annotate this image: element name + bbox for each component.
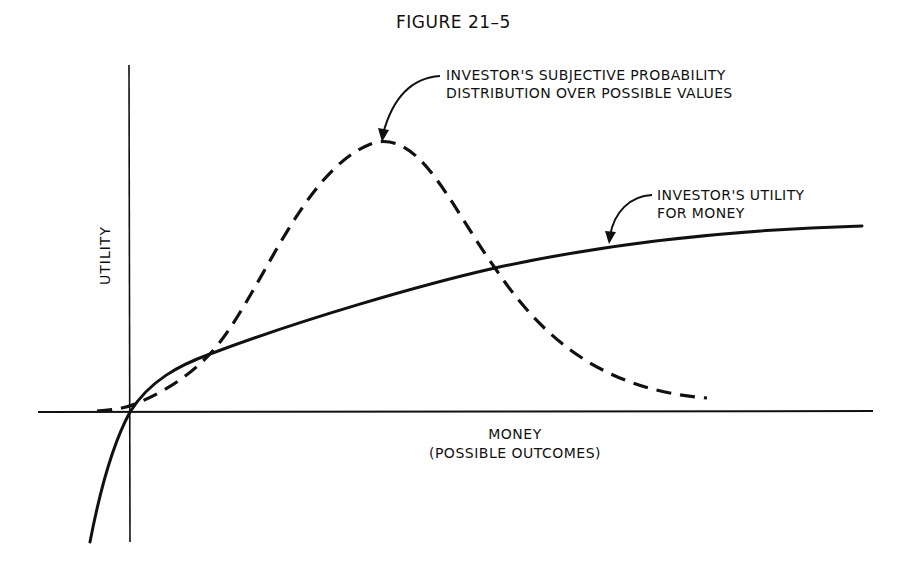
x-axis-label-line2: (POSSIBLE OUTCOMES)	[400, 444, 630, 463]
distribution-annotation-line1: INVESTOR'S SUBJECTIVE PROBABILITY	[446, 66, 733, 84]
utility-annotation: INVESTOR'S UTILITY FOR MONEY	[657, 186, 805, 222]
x-axis-label-line1: MONEY	[400, 425, 630, 444]
probability-distribution-curve	[97, 142, 707, 411]
distribution-annotation-line2: DISTRIBUTION OVER POSSIBLE VALUES	[446, 84, 733, 102]
distribution-annotation: INVESTOR'S SUBJECTIVE PROBABILITY DISTRI…	[446, 66, 733, 102]
utility-curve	[90, 226, 862, 542]
distribution-arrowhead-icon	[378, 128, 389, 142]
utility-arrow-icon	[610, 195, 652, 236]
y-axis	[129, 65, 130, 542]
utility-annotation-line1: INVESTOR'S UTILITY	[657, 186, 805, 204]
x-axis	[38, 411, 873, 412]
x-axis-label: MONEY (POSSIBLE OUTCOMES)	[400, 425, 630, 463]
utility-annotation-line2: FOR MONEY	[657, 204, 805, 222]
distribution-arrow-icon	[383, 76, 440, 134]
y-axis-label: UTILITY	[97, 226, 113, 285]
utility-arrowhead-icon	[605, 231, 616, 244]
